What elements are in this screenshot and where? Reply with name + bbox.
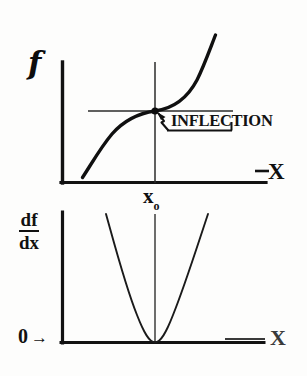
f-axis-label: f [28, 48, 41, 79]
derivative-axis-label: df dx [19, 210, 39, 252]
zero-value: 0 [18, 325, 28, 347]
x-zero-subscript: o [154, 199, 160, 213]
x-zero-tick-label: xo [143, 186, 160, 210]
inflection-leader-arrowhead [157, 112, 166, 120]
figure-canvas: f INFLECTION X xo df dx 0→ X [0, 0, 307, 376]
right-arrow-icon: → [28, 328, 48, 347]
derivative-numerator: df [19, 210, 39, 232]
lower-plot-group [61, 212, 265, 343]
x-zero-base: x [143, 184, 154, 208]
inflection-annotation-label: INFLECTION [171, 112, 273, 129]
zero-origin-label: 0→ [18, 326, 48, 346]
cubic-curve [83, 35, 216, 178]
derivative-denominator: dx [19, 232, 39, 252]
parabola-curve [106, 214, 208, 343]
upper-x-axis-label: X [268, 160, 285, 183]
lower-x-axis-label: X [270, 327, 286, 349]
